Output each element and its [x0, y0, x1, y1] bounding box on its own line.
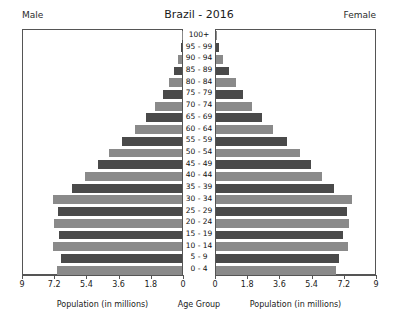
bar-row: [23, 137, 182, 146]
bar-female-70-74: [216, 102, 252, 111]
age-label-95-99: 95 - 99: [183, 43, 215, 51]
bar-row: [23, 55, 182, 64]
age-label-55-59: 55 - 59: [183, 136, 215, 144]
bar-female-55-59: [216, 137, 287, 146]
bar-male-0-4: [57, 266, 182, 275]
bar-row: [23, 67, 182, 76]
axis-tick: [151, 275, 152, 279]
age-label-65-69: 65 - 69: [183, 113, 215, 121]
age-label-40-44: 40 - 44: [183, 171, 215, 179]
bar-row: [23, 254, 182, 263]
age-label-85-89: 85 - 89: [183, 66, 215, 74]
bar-row: [23, 207, 182, 216]
female-plot-area: [215, 29, 376, 275]
age-label-80-84: 80 - 84: [183, 78, 215, 86]
axis-tick: [86, 275, 87, 279]
bar-female-20-24: [216, 219, 349, 228]
axis-tick: [344, 275, 345, 279]
bar-female-65-69: [216, 113, 262, 122]
bar-female-80-84: [216, 78, 236, 87]
bar-row: [23, 31, 182, 40]
bar-male-35-39: [72, 184, 182, 193]
bar-row: [216, 90, 375, 99]
bar-row: [216, 160, 375, 169]
bar-row: [216, 137, 375, 146]
axis-tick: [376, 275, 377, 279]
bar-row: [216, 149, 375, 158]
bar-row: [23, 231, 182, 240]
bar-female-95-99: [216, 43, 219, 52]
female-axis-line: [215, 275, 376, 276]
female-axis-caption: Population (in millions): [215, 300, 376, 309]
male-plot-area: [22, 29, 183, 275]
bar-row: [216, 125, 375, 134]
bar-row: [216, 254, 375, 263]
bar-male-40-44: [85, 172, 182, 181]
bar-female-0-4: [216, 266, 336, 275]
age-label-0-4: 0 - 4: [183, 265, 215, 273]
axis-tick: [119, 275, 120, 279]
bar-male-45-49: [98, 160, 182, 169]
axis-tick-label: 7.2: [329, 280, 359, 289]
axis-tick: [22, 275, 23, 279]
bar-male-30-34: [53, 195, 182, 204]
bar-female-100plus: [216, 31, 217, 40]
bar-row: [216, 266, 375, 275]
bar-male-10-14: [53, 242, 183, 251]
bar-female-35-39: [216, 184, 334, 193]
axis-tick: [183, 275, 184, 279]
bar-row: [216, 219, 375, 228]
bar-female-60-64: [216, 125, 273, 134]
bar-row: [23, 172, 182, 181]
bar-male-70-74: [155, 102, 182, 111]
male-bars: [23, 30, 182, 274]
bar-male-50-54: [109, 149, 182, 158]
bar-female-90-94: [216, 55, 223, 64]
bar-row: [216, 231, 375, 240]
age-label-10-14: 10 - 14: [183, 242, 215, 250]
bar-male-15-19: [59, 231, 182, 240]
axis-tick: [215, 275, 216, 279]
axis-tick-label: 1.8: [136, 280, 166, 289]
axis-tick-label: 1.8: [232, 280, 262, 289]
female-x-axis: 01.83.65.47.29: [215, 275, 376, 293]
female-legend-label: Female: [343, 10, 376, 20]
bar-row: [216, 67, 375, 76]
age-group-labels: 100+95 - 9990 - 9485 - 8980 - 8475 - 797…: [183, 29, 215, 275]
bar-male-65-69: [146, 113, 182, 122]
bar-row: [216, 43, 375, 52]
bar-female-45-49: [216, 160, 311, 169]
axis-tick: [54, 275, 55, 279]
axis-tick: [312, 275, 313, 279]
age-label-50-54: 50 - 54: [183, 148, 215, 156]
bar-male-20-24: [54, 219, 182, 228]
axis-tick: [279, 275, 280, 279]
bar-female-40-44: [216, 172, 322, 181]
age-label-20-24: 20 - 24: [183, 218, 215, 226]
male-axis-caption: Population (in millions): [22, 300, 183, 309]
bar-row: [216, 55, 375, 64]
age-label-25-29: 25 - 29: [183, 207, 215, 215]
bar-row: [23, 90, 182, 99]
bar-female-30-34: [216, 195, 352, 204]
bar-female-50-54: [216, 149, 300, 158]
bar-row: [216, 31, 375, 40]
bar-male-85-89: [174, 67, 182, 76]
bar-row: [23, 195, 182, 204]
bar-female-5-9: [216, 254, 339, 263]
bar-row: [216, 242, 375, 251]
bar-row: [23, 78, 182, 87]
bar-female-75-79: [216, 90, 243, 99]
bar-row: [216, 195, 375, 204]
bar-male-90-94: [178, 55, 182, 64]
population-pyramid-chart: Male Brazil - 2016 Female 100+95 - 9990 …: [0, 0, 398, 328]
bar-female-10-14: [216, 242, 348, 251]
axis-tick-label: 0: [200, 280, 230, 289]
axis-tick-label: 5.4: [297, 280, 327, 289]
age-label-100plus: 100+: [183, 31, 215, 39]
bar-row: [23, 219, 182, 228]
bar-row: [23, 43, 182, 52]
axis-tick-label: 9: [7, 280, 37, 289]
bar-row: [216, 172, 375, 181]
bar-row: [216, 113, 375, 122]
